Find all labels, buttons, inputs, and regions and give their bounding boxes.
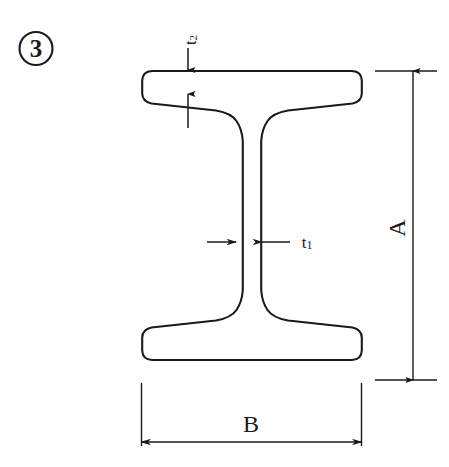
figure-drawing-area: 3 t2 t1 A B bbox=[0, 0, 449, 467]
A-label-text: A bbox=[384, 219, 410, 237]
B-label-text: B bbox=[243, 411, 259, 437]
dimension-t2-label: t2 bbox=[182, 35, 200, 45]
svg-text:t2: t2 bbox=[182, 35, 200, 45]
beam-profile-outline bbox=[142, 71, 362, 360]
dimension-B-label: B bbox=[243, 411, 259, 437]
figure-index-badge: 3 bbox=[20, 32, 53, 65]
t1-label-subscript: 1 bbox=[306, 238, 312, 252]
figure-index-label: 3 bbox=[30, 35, 43, 62]
svg-text:t1: t1 bbox=[302, 233, 313, 253]
dimension-A-label: A bbox=[384, 219, 410, 237]
dimension-t1-label: t1 bbox=[302, 233, 313, 253]
t2-label-subscript: 2 bbox=[187, 35, 199, 41]
beam-cross-section-diagram: 3 t2 t1 A B bbox=[0, 0, 449, 467]
